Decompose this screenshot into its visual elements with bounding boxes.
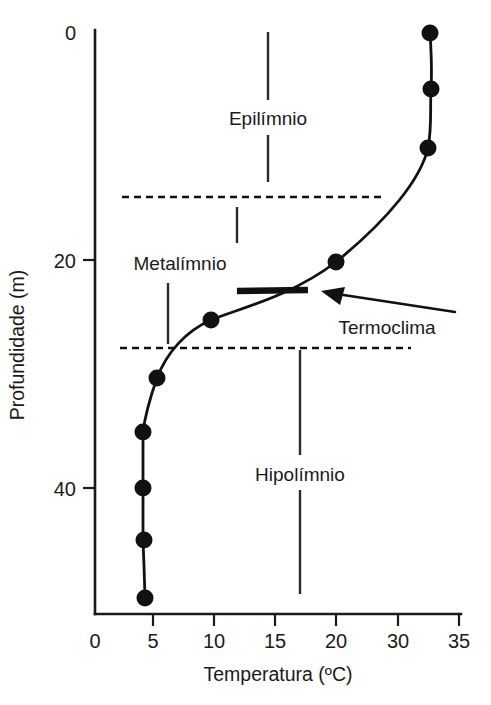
- x-tick-label-0: 0: [89, 630, 100, 652]
- data-point: [422, 25, 439, 42]
- y-axis: [83, 30, 95, 614]
- epilimnion-annotation: Epilímnio: [229, 32, 307, 182]
- y-tick-label-0: 0: [65, 22, 76, 44]
- data-point: [135, 424, 152, 441]
- y-tick-labels: 0 20 40: [54, 22, 76, 500]
- data-point: [203, 312, 220, 329]
- metalimnion-annotation: Metalímnio: [134, 207, 237, 344]
- x-tick-labels: 0 5 10 15 20 30 35: [89, 630, 470, 652]
- thermocline-arrow-head: [321, 287, 345, 305]
- temperature-depth-profile-chart: 0 20 40 0 5 10 15 20 30 35 Temperatura (…: [0, 0, 491, 705]
- x-tick-label-5: 5: [147, 630, 158, 652]
- data-point: [420, 140, 437, 157]
- x-tick-label-15: 15: [264, 630, 286, 652]
- data-point: [136, 532, 153, 549]
- data-point: [149, 370, 166, 387]
- x-tick-label-10: 10: [203, 630, 225, 652]
- y-tick-label-20: 20: [54, 250, 76, 272]
- x-tick-label-30: 30: [387, 630, 409, 652]
- y-tick-label-40: 40: [54, 478, 76, 500]
- x-axis: [95, 614, 461, 626]
- thermocline-annotation: Termoclima: [321, 287, 455, 338]
- data-point: [137, 590, 154, 607]
- x-tick-label-35: 35: [448, 630, 470, 652]
- x-axis-title: Temperatura (ºC): [203, 663, 352, 685]
- hipolimnion-label: Hipolímnio: [255, 464, 345, 485]
- data-point: [423, 81, 440, 98]
- y-axis-title: Profundidade (m): [6, 270, 28, 421]
- thermocline-bar: [237, 290, 308, 291]
- chart-svg: 0 20 40 0 5 10 15 20 30 35 Temperatura (…: [0, 0, 491, 705]
- thermocline-arrow-shaft: [337, 294, 455, 312]
- epilimnion-label: Epilímnio: [229, 108, 307, 129]
- metalimnion-label: Metalímnio: [134, 253, 227, 274]
- data-point: [328, 254, 345, 271]
- thermocline-label: Termoclima: [338, 317, 436, 338]
- x-tick-label-20: 20: [325, 630, 347, 652]
- data-point: [135, 480, 152, 497]
- hipolimnion-annotation: Hipolímnio: [255, 350, 345, 594]
